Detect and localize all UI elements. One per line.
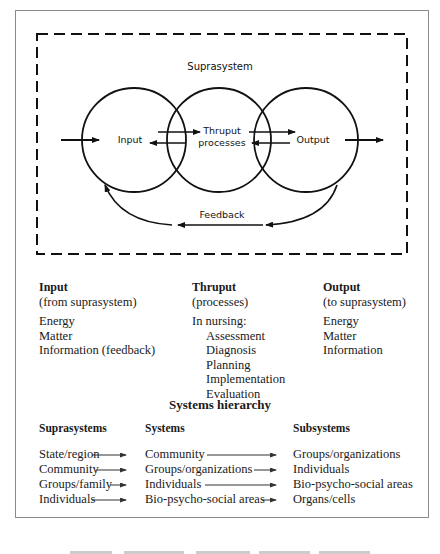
list-item: Matter [39,329,155,344]
hierarchy-cell: Groups/organizations [293,447,400,462]
output-column: Output (to suprasystem) Energy Matter In… [323,280,406,358]
hierarchy-cell: Community [145,447,205,462]
thruput-intro: In nursing: [192,314,285,329]
suprasystem-label: Suprasystem [187,61,252,72]
list-item: Planning [192,358,285,373]
input-label: Input [118,134,143,145]
list-item: Assessment [192,329,285,344]
hierarchy-cell: Individuals [293,462,349,477]
hierarchy-cell: Individuals [145,477,201,492]
hierarchy-cell: Organs/cells [293,492,355,507]
output-heading: Output [323,280,406,295]
list-item: Diagnosis [192,343,285,358]
list-item: Matter [323,329,406,344]
hierarchy-header-subsystems: Subsystems [293,422,350,434]
input-heading: Input [39,280,155,295]
input-subheading: (from suprasystem) [39,295,155,310]
output-subheading: (to suprasystem) [323,295,406,310]
hierarchy-cell: Groups/organizations [145,462,252,477]
hierarchy-cell: Community [39,462,99,477]
hierarchy-cell: Bio-psycho-social areas [145,492,265,507]
hierarchy-header-systems: Systems [145,422,185,434]
thruput-label-line1: Thruput [202,125,241,136]
input-column: Input (from suprasystem) Energy Matter I… [39,280,155,358]
hierarchy-cell: Individuals [39,492,95,507]
list-item: Energy [323,314,406,329]
thruput-subheading: (processes) [192,295,285,310]
hierarchy-cell: Bio-psycho-social areas [293,477,413,492]
hierarchy-title: Systems hierarchy [0,397,440,413]
list-item: Information [323,343,406,358]
output-label: Output [297,134,330,145]
hierarchy-cell: State/region [39,447,99,462]
list-item: Energy [39,314,155,329]
thruput-column: Thruput (processes) In nursing: Assessme… [192,280,285,401]
feedback-label: Feedback [199,209,245,220]
figure-caption-clipped [70,546,370,554]
list-item: Information (feedback) [39,343,155,358]
thruput-label-line2: processes [198,137,245,148]
thruput-heading: Thruput [192,280,285,295]
hierarchy-cell: Groups/family [39,477,112,492]
list-item: Implementation [192,372,285,387]
hierarchy-header-suprasystems: Suprasystems [39,422,107,434]
